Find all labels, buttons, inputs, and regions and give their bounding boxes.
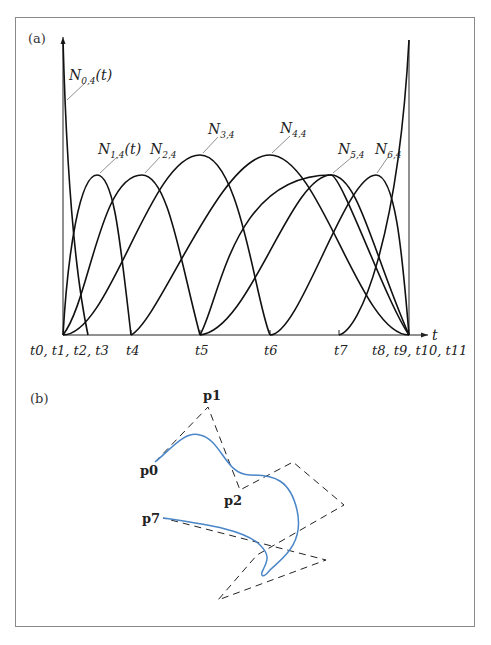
label-n34: N3,4 bbox=[207, 121, 235, 140]
curve-n54-bell bbox=[200, 175, 409, 335]
knot-labels: t0, t1, t2, t3 t4 t5 t6 t7 t8, t9, t10, … bbox=[30, 343, 467, 358]
control-polygon bbox=[155, 407, 344, 600]
label-p0: p0 bbox=[140, 463, 158, 478]
label-p7: p7 bbox=[142, 511, 160, 526]
label-p2: p2 bbox=[224, 493, 242, 508]
axes bbox=[63, 37, 428, 335]
label-n64: N6,4 bbox=[374, 141, 402, 160]
knot-label-t0-t3: t0, t1, t2, t3 bbox=[30, 343, 109, 358]
curve-n34 bbox=[63, 155, 270, 335]
panel-a-label: (a) bbox=[28, 31, 46, 46]
label-n04: N0,4(t) bbox=[68, 67, 112, 86]
knot-label-t8-t11: t8, t9, t10, t11 bbox=[372, 343, 467, 358]
basis-curves bbox=[63, 40, 409, 335]
figure-canvas: (a) t bbox=[0, 0, 491, 645]
panel-b-label: (b) bbox=[30, 391, 48, 406]
label-n44: N4,4 bbox=[279, 120, 307, 139]
basis-labels: N0,4(t) N1,4(t) N2,4 N3,4 N4,4 N5,4 N6,4 bbox=[68, 67, 402, 160]
label-n54: N5,4 bbox=[337, 141, 365, 160]
curve-n64 bbox=[270, 175, 409, 335]
knot-label-t5: t5 bbox=[195, 343, 209, 358]
x-axis-label: t bbox=[432, 327, 438, 343]
control-point-labels: p0 p1 p2 p7 bbox=[140, 388, 242, 526]
label-n24: N2,4 bbox=[149, 141, 177, 160]
curve-n14 bbox=[63, 175, 131, 335]
knot-label-t4: t4 bbox=[126, 343, 140, 358]
label-n14: N1,4(t) bbox=[97, 141, 141, 160]
label-p1: p1 bbox=[203, 388, 221, 403]
knot-label-t7: t7 bbox=[334, 343, 348, 358]
knot-label-t6: t6 bbox=[264, 343, 278, 358]
